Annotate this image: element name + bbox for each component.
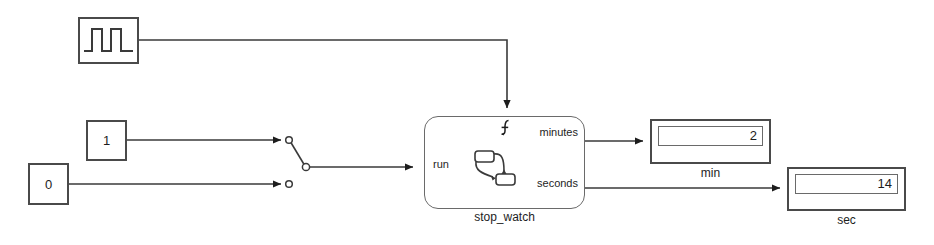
constant-one-block[interactable]: 1 <box>86 120 127 161</box>
switch-contact-upper[interactable] <box>286 137 293 144</box>
minutes-display-block[interactable]: 2 <box>650 119 771 164</box>
minutes-display-caption: min <box>650 166 771 180</box>
constant-zero-block[interactable]: 0 <box>28 163 69 205</box>
manual-switch[interactable] <box>286 137 310 188</box>
seconds-display-caption: sec <box>787 213 906 227</box>
stateflow-state-transition-icon <box>473 147 519 193</box>
square-wave-icon <box>80 19 137 62</box>
constant-one-value: 1 <box>103 133 110 148</box>
chart-output-port-minutes: minutes <box>539 126 578 138</box>
minutes-display-value: 2 <box>658 126 763 146</box>
wire-pulse-to-trigger <box>139 40 507 108</box>
pulse-generator-block[interactable] <box>78 17 139 64</box>
seconds-display-value: 14 <box>795 174 898 194</box>
stopwatch-chart-block[interactable]: run minutes seconds <box>424 116 585 209</box>
chart-output-port-seconds: seconds <box>537 177 578 189</box>
constant-zero-value: 0 <box>45 177 52 192</box>
stopwatch-chart-caption: stop_watch <box>424 210 585 224</box>
chart-input-port-run: run <box>433 158 449 170</box>
simulink-model-canvas: 1 0 run minutes seconds stop_ <box>0 0 934 245</box>
seconds-display-block[interactable]: 14 <box>787 167 906 211</box>
switch-common-node[interactable] <box>302 163 309 170</box>
switch-contact-lower[interactable] <box>286 181 293 188</box>
function-call-trigger-icon <box>497 119 513 137</box>
